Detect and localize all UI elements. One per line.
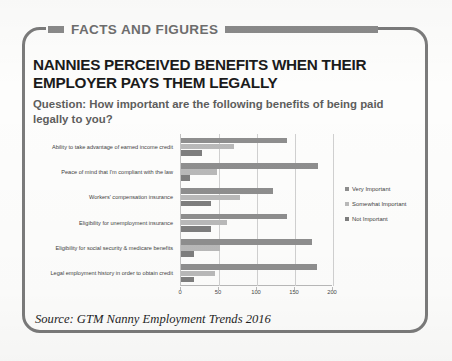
bar: [181, 138, 287, 143]
bar: [181, 195, 240, 200]
category-label: Ability to take advantage of earned inco…: [33, 134, 177, 159]
banner-rule-left: [48, 26, 64, 33]
category-label: Legal employment history in order to obt…: [33, 261, 177, 286]
legend-item: Not Important: [345, 216, 423, 222]
bar: [181, 144, 234, 149]
bar: [181, 271, 215, 276]
legend-swatch-icon: [345, 217, 349, 221]
bar: [181, 201, 211, 206]
bar: [181, 264, 317, 269]
chart-legend: Very ImportantSomewhat ImportantNot Impo…: [345, 186, 423, 222]
gridline: [333, 134, 334, 286]
bar-group: [181, 235, 332, 260]
legend-label: Not Important: [352, 216, 388, 222]
bar-chart: Ability to take advantage of earned inco…: [33, 134, 421, 306]
category-axis-labels: Ability to take advantage of earned inco…: [33, 134, 177, 286]
banner-label: FACTS AND FIGURES: [71, 22, 218, 37]
bar-group: [181, 185, 332, 210]
bar: [181, 226, 211, 231]
legend-item: Somewhat Important: [345, 201, 423, 207]
category-label: Workers' compensation insurance: [33, 185, 177, 210]
legend-item: Very Important: [345, 186, 423, 192]
bar-group: [181, 134, 332, 159]
banner-rule-right: [225, 26, 378, 33]
category-label: Eligibility for social security & medica…: [33, 235, 177, 260]
bar-group: [181, 261, 332, 286]
category-label: Peace of mind that I'm compliant with th…: [33, 159, 177, 184]
plot-wrapper: Ability to take advantage of earned inco…: [33, 134, 343, 306]
x-tick-label: 0: [178, 289, 181, 295]
bar: [181, 245, 220, 250]
infographic-page: FACTS AND FIGURES NANNIES PERCEIVED BENE…: [0, 0, 452, 361]
bar: [181, 239, 312, 244]
question-subtitle: Question: How important are the followin…: [33, 97, 405, 126]
bar: [181, 214, 287, 219]
legend-swatch-icon: [345, 187, 349, 191]
x-axis-ticks: 050100150200: [180, 287, 332, 301]
bar-group: [181, 159, 332, 184]
page-title: NANNIES PERCEIVED BENEFITS WHEN THEIR EM…: [33, 56, 429, 92]
category-label: Eligibility for unemployment insurance: [33, 210, 177, 235]
source-note: Source: GTM Nanny Employment Trends 2016: [35, 312, 271, 327]
bar: [181, 220, 227, 225]
x-tick-label: 200: [327, 289, 337, 295]
legend-label: Very Important: [352, 186, 390, 192]
bar: [181, 150, 202, 155]
x-tick-label: 50: [215, 289, 221, 295]
bar: [181, 163, 318, 168]
bar: [181, 188, 273, 193]
facts-and-figures-banner: FACTS AND FIGURES: [48, 18, 378, 40]
legend-swatch-icon: [345, 202, 349, 206]
bar: [181, 277, 194, 282]
bar: [181, 175, 190, 180]
x-tick-label: 100: [251, 289, 261, 295]
bar: [181, 169, 217, 174]
legend-label: Somewhat Important: [352, 201, 406, 207]
bar: [181, 251, 194, 256]
plot-area: [180, 134, 332, 286]
x-tick-label: 150: [289, 289, 299, 295]
bar-group: [181, 210, 332, 235]
